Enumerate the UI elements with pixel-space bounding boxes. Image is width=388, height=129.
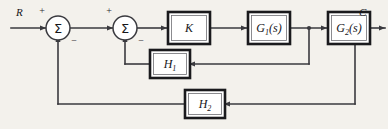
feedback-block-h2-subscript: 2 bbox=[207, 104, 211, 113]
input-signal-label: R bbox=[15, 6, 23, 18]
summer-2-glyph: Σ bbox=[121, 21, 129, 36]
summer-1-input-sign: + bbox=[39, 5, 45, 16]
feedback-block-h1-subscript: 1 bbox=[172, 64, 176, 73]
summer-1-glyph: Σ bbox=[54, 21, 62, 36]
forward-block-g2-label: G2(s) bbox=[336, 21, 361, 37]
forward-block-g1-letter: G bbox=[256, 21, 265, 35]
block-diagram: Σ + − Σ + − K G1(s) G2(s) H1 bbox=[0, 0, 388, 129]
summer-1-feedback-sign: − bbox=[71, 35, 77, 46]
gain-block-k-label: K bbox=[184, 21, 194, 35]
forward-block-g1-suffix: (s) bbox=[269, 21, 282, 35]
forward-block-g1-label: G1(s) bbox=[256, 21, 281, 37]
summer-2-input-sign: + bbox=[106, 5, 112, 16]
junction-dot-g1-tap bbox=[307, 26, 311, 30]
diagram-canvas: Σ + − Σ + − K G1(s) G2(s) H1 bbox=[0, 0, 388, 129]
output-signal-label: C bbox=[359, 6, 367, 18]
forward-block-g2-letter: G bbox=[336, 21, 345, 35]
forward-block-g2-suffix: (s) bbox=[349, 21, 362, 35]
summer-2-feedback-sign: − bbox=[138, 35, 144, 46]
